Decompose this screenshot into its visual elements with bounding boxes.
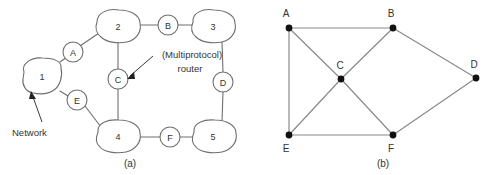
network-label-1: 1: [39, 72, 44, 82]
network-annotation-label: Network: [12, 127, 47, 138]
vertex-dot-c: [338, 76, 345, 83]
figure-captions: (a) (b): [124, 158, 389, 169]
router-node-c[interactable]: C: [108, 69, 128, 89]
panel-a: 1 2 3 4 5: [12, 10, 236, 153]
vertex-dot-b: [390, 25, 397, 32]
link-routerE-net4: [85, 106, 101, 127]
link-routerA-net2: [80, 33, 99, 46]
router-node-e[interactable]: E: [67, 90, 87, 110]
caption-a: (a): [124, 158, 136, 169]
edge-b-d: [393, 28, 476, 78]
vertex-label-f: F: [388, 143, 394, 154]
router-label-b: B: [165, 21, 171, 31]
router-label-d: D: [220, 78, 227, 88]
vertex-dot-e: [286, 132, 293, 139]
link-net3-routerD: [222, 42, 223, 72]
vertex-label-a: A: [283, 8, 290, 19]
router-label-c: C: [115, 75, 122, 85]
panel-b: A B C D E: [283, 8, 480, 154]
edge-c-b: [341, 28, 393, 79]
network-label-5: 5: [210, 132, 215, 142]
caption-b: (b): [377, 158, 389, 169]
network-node-1[interactable]: 1: [23, 58, 62, 94]
network-node-3[interactable]: 3: [192, 10, 236, 43]
vertex-dot-f: [390, 132, 397, 139]
router-node-a[interactable]: A: [63, 42, 83, 62]
edge-c-f: [341, 79, 393, 135]
vertex-label-b: B: [388, 8, 395, 19]
vertex-dot-d: [473, 75, 480, 82]
edge-c-e: [289, 79, 341, 135]
panel-a-links: [60, 25, 223, 137]
router-arrowhead: [127, 72, 135, 79]
figure-root: 1 2 3 4 5: [0, 0, 496, 175]
vertex-dot-a: [286, 25, 293, 32]
vertex-d[interactable]: D: [470, 59, 479, 81]
network-node-4[interactable]: 4: [96, 120, 140, 153]
vertex-label-e: E: [283, 143, 290, 154]
router-label-f: F: [167, 133, 173, 143]
vertex-e[interactable]: E: [283, 132, 293, 154]
edge-a-c: [289, 28, 341, 79]
panel-a-networks: 1 2 3 4 5: [23, 10, 236, 153]
annotation-multiprotocol-router: (Multiprotocol) router: [127, 49, 222, 79]
router-node-b[interactable]: B: [158, 15, 178, 35]
router-node-d[interactable]: D: [213, 72, 233, 92]
vertex-a[interactable]: A: [283, 8, 293, 31]
panel-b-vertices: A B C D E: [283, 8, 480, 154]
network-label-4: 4: [115, 132, 120, 142]
network-label-3: 3: [210, 22, 215, 32]
link-net1-routerE: [60, 91, 68, 96]
edge-f-d: [393, 78, 476, 135]
router-label-a: A: [70, 48, 76, 58]
network-node-2[interactable]: 2: [96, 10, 140, 43]
network-node-5[interactable]: 5: [192, 120, 236, 153]
annotation-network: Network: [12, 91, 47, 138]
router-label-e: E: [74, 96, 80, 106]
network-leader-line: [33, 97, 42, 122]
vertex-label-d: D: [470, 59, 477, 70]
router-node-f[interactable]: F: [160, 127, 180, 147]
panel-b-edges: [289, 28, 476, 135]
network-label-2: 2: [115, 22, 120, 32]
network-figure: 1 2 3 4 5: [0, 0, 496, 175]
vertex-label-c: C: [336, 60, 343, 71]
vertex-c[interactable]: C: [336, 60, 344, 82]
router-annotation-line1: (Multiprotocol): [162, 49, 222, 60]
link-routerD-net5: [222, 92, 223, 122]
router-annotation-line2: router: [178, 63, 203, 74]
